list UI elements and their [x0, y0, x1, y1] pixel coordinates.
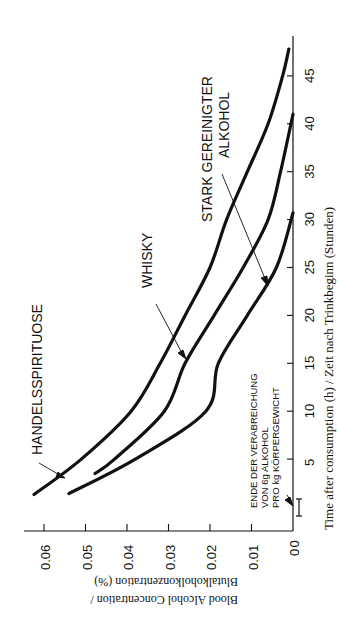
label-stark-line2: ALKOHOL	[216, 92, 232, 158]
chart: 51015202530354045 00.010.020.030.040.050…	[0, 0, 338, 636]
concentration-tick-label: 0.01	[246, 545, 261, 570]
concentration-tick-label: 0.05	[80, 545, 95, 570]
time-tick-label: 10	[302, 404, 317, 418]
y-axis-label-line2: Blutalkoholkonzentration (%)	[94, 575, 238, 589]
stark-arrowhead	[261, 276, 268, 286]
time-tick-label: 20	[302, 308, 317, 322]
time-tick-label: 30	[302, 212, 317, 226]
label-ende-line3: PRO kg KÖRPERGEWICHT	[270, 387, 281, 508]
label-whisky: WHISKY	[139, 232, 155, 288]
time-tick-label: 25	[302, 260, 317, 274]
y-axis-label-line1: Blood Alcohol Concentration /	[90, 593, 238, 607]
time-tick-label: 35	[302, 164, 317, 178]
time-tick-label: 40	[302, 116, 317, 130]
concentration-tick-label: 0.06	[38, 545, 53, 570]
concentration-tick-label: 0.03	[163, 545, 178, 570]
concentration-tick-label: 0	[287, 540, 302, 547]
origin-label: 0	[287, 549, 302, 556]
time-tick-label: 15	[302, 356, 317, 370]
x-axis-label: Time after consumption (h) / Zeit nach T…	[321, 207, 336, 530]
label-stark-line1: STARK GEREINIGTER	[199, 76, 215, 222]
label-handelsspirituose: HANDELSSPIRITUOSE	[29, 304, 45, 455]
concentration-tick-label: 0.02	[204, 545, 219, 570]
label-ende-line1: ENDE DER VERABREICHUNG	[248, 373, 259, 508]
whisky-arrowhead	[178, 350, 186, 359]
time-tick-label: 45	[302, 68, 317, 82]
ende-arrowhead	[285, 497, 293, 506]
time-tick-label: 5	[302, 459, 317, 466]
label-ende-line2: VON 6g ALKOHOL	[259, 427, 270, 508]
concentration-tick-label: 0.04	[121, 545, 136, 570]
